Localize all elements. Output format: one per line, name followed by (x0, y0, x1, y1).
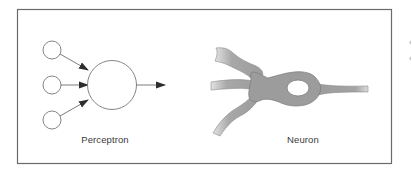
input-node-3 (43, 111, 61, 129)
perceptron-vs-neuron-figure: Perceptron Neuron (0, 0, 412, 176)
neuron-dendrite-lower (213, 98, 258, 136)
neuron-axon (318, 84, 368, 95)
neuron-diagram (211, 48, 368, 136)
edge-mark-2 (410, 57, 412, 60)
perceptron-diagram (43, 41, 165, 129)
perceptron-node (88, 61, 137, 110)
edge-mark-1 (410, 41, 412, 44)
neuron-cell-body (249, 72, 321, 106)
neuron-label: Neuron (287, 134, 319, 145)
perceptron-label: Perceptron (81, 134, 128, 145)
input-arrow-3 (60, 100, 88, 116)
input-node-1 (43, 41, 61, 59)
neuron-nucleus (287, 80, 309, 96)
input-arrow-1 (60, 54, 88, 70)
input-node-2 (43, 76, 61, 94)
figure-canvas (0, 0, 412, 176)
